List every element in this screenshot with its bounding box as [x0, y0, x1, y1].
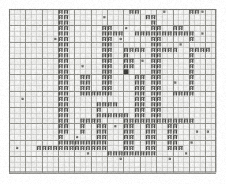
grid-map-canvas — [0, 0, 226, 184]
